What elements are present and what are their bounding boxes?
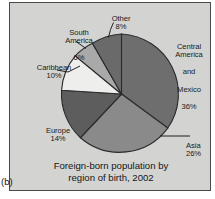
- slice-label-south-america: South America 6%: [57, 20, 101, 72]
- slice-percent-value: 26%: [186, 150, 211, 159]
- slice-percent-value: 36%: [160, 103, 211, 112]
- slice-percent-value: 8%: [103, 23, 139, 32]
- chart-caption: Foreign-born population by region of bir…: [22, 160, 200, 185]
- slice-label-europe: Europe 14%: [36, 118, 80, 152]
- slice-percent-value: 10%: [28, 72, 80, 81]
- slice-percent-value: 14%: [36, 135, 80, 144]
- slice-label-text: America: [57, 37, 101, 46]
- slice-label-central-america-and-mexico: Central America and Mexico 36%: [160, 34, 211, 120]
- slice-label-other: Other 8%: [103, 6, 139, 40]
- figure-container: Central America and Mexico 36% Asia 26% …: [0, 0, 215, 199]
- caption-line-1: Foreign-born population by: [22, 160, 200, 172]
- figure-letter: (b): [1, 176, 13, 187]
- slice-label-text: and: [160, 68, 211, 77]
- chart-panel: Central America and Mexico 36% Asia 26% …: [9, 2, 211, 191]
- caption-line-2: region of birth, 2002: [22, 172, 200, 184]
- slice-label-text: Mexico: [160, 86, 211, 95]
- slice-percent-value: 6%: [57, 54, 101, 63]
- slice-label-text: America: [160, 51, 211, 60]
